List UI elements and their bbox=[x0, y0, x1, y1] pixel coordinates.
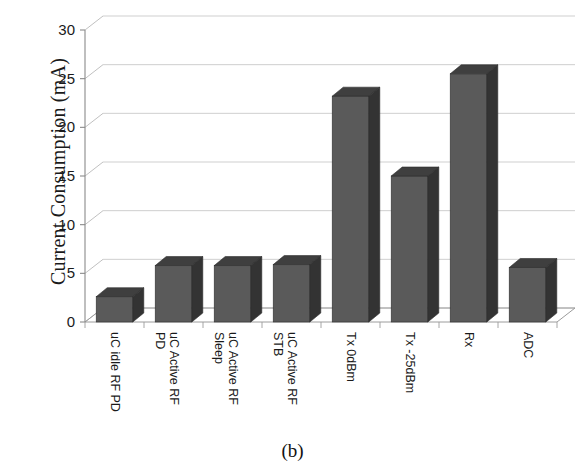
bar-column bbox=[155, 257, 203, 322]
y-axis-tick-label: 30 bbox=[41, 21, 75, 38]
x-axis-category-label: uC Active RF PD bbox=[165, 332, 181, 450]
x-axis-category-label: uC idle RF PD bbox=[106, 332, 122, 450]
figure-panel-b: Current Consumption (mA) 051015202530 uC… bbox=[0, 0, 585, 474]
y-axis-tick-label: 20 bbox=[41, 118, 75, 135]
y-axis-tick-label: 25 bbox=[41, 70, 75, 87]
bar-column bbox=[509, 258, 557, 322]
axes-group bbox=[80, 30, 575, 328]
bar-column bbox=[450, 65, 498, 322]
y-axis-tick-label: 15 bbox=[41, 167, 75, 184]
x-axis-category-label: Tx 0dBm bbox=[342, 332, 358, 450]
bar-column bbox=[214, 257, 262, 322]
bar-column bbox=[96, 288, 144, 322]
figure-caption: (b) bbox=[0, 440, 585, 462]
bar-column bbox=[273, 256, 321, 322]
x-axis-category-label: Tx -25dBm bbox=[401, 332, 417, 450]
x-axis-category-label: Rx bbox=[460, 332, 476, 450]
x-axis-category-label: uC Active RF STB bbox=[283, 332, 299, 450]
y-axis-tick-label: 0 bbox=[41, 313, 75, 330]
bar-column bbox=[332, 87, 380, 322]
x-axis-category-label: uC Active RF Sleep bbox=[224, 332, 240, 450]
x-axis-category-label: ADC bbox=[519, 332, 535, 450]
bar-column bbox=[391, 167, 439, 322]
y-axis-tick-label: 10 bbox=[41, 216, 75, 233]
y-axis-tick-label: 5 bbox=[41, 264, 75, 281]
bars-group bbox=[96, 65, 557, 322]
